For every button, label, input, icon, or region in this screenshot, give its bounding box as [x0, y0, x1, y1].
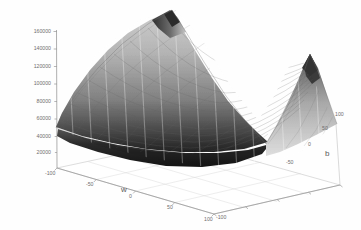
z-tick-label: 60000	[13, 116, 51, 121]
b-tick-label: -100	[216, 215, 226, 220]
z-tick-label: 140000	[13, 46, 51, 51]
z-tick-label: 40000	[13, 134, 51, 139]
w-tick-label: -100	[45, 171, 55, 176]
b-tick-label: 50	[322, 126, 328, 131]
z-tick-label: 20000	[13, 150, 51, 155]
z-tick-label: 100000	[13, 81, 51, 86]
surface-plot-svg	[0, 0, 361, 230]
b-tick-label: 100	[335, 112, 344, 117]
w-tick-label: 100	[204, 217, 213, 222]
z-tick-label: 120000	[13, 64, 51, 69]
b-tick-label: 0	[308, 142, 311, 147]
w-tick-label: -50	[86, 182, 94, 187]
x-axis-title: w	[121, 186, 127, 194]
w-tick-label: 50	[167, 205, 173, 210]
z-tick-label: 160000	[13, 29, 51, 34]
y-axis-title: b	[325, 150, 329, 158]
figure-canvas: 160000 140000 120000 100000 80000 60000 …	[0, 0, 361, 230]
z-tick-label: 80000	[13, 99, 51, 104]
z-axis	[54, 30, 58, 168]
b-tick-label: -50	[286, 160, 294, 165]
w-tick-label: 0	[129, 194, 132, 199]
